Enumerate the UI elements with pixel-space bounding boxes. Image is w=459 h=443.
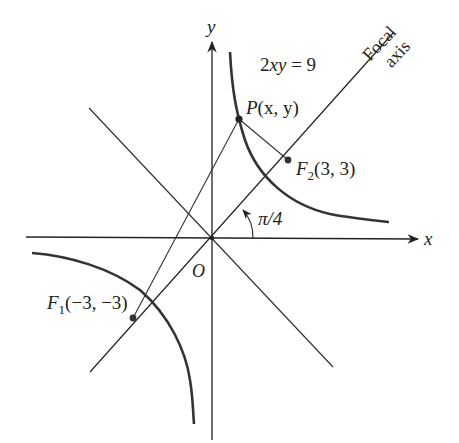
focal-axis-line	[90, 32, 394, 372]
hyperbola-branch-upper	[230, 52, 389, 222]
point-F2-label: F2(3, 3)	[295, 158, 355, 183]
point-F2	[285, 157, 292, 164]
point-P	[235, 115, 242, 122]
x-axis-label: x	[423, 228, 433, 249]
segment-P-F1	[133, 119, 239, 318]
point-F1-label: F1(−3, −3)	[46, 292, 128, 317]
origin-label: O	[192, 261, 205, 281]
focal-axis-label: Focal axis	[358, 19, 418, 79]
hyperbola-diagram: y x O 2xy = 9 Focal axis P(x, y) F2(3, 3…	[0, 0, 459, 443]
equation-label: 2xy = 9	[260, 54, 316, 75]
y-axis-label: y	[205, 16, 216, 37]
angle-arc	[243, 210, 253, 238]
origin-point	[210, 236, 214, 240]
point-P-label: P(x, y)	[245, 97, 299, 119]
segment-P-F2	[239, 119, 288, 160]
angle-label: π/4	[258, 208, 283, 229]
point-F1	[130, 315, 137, 322]
hyperbola-branch-lower	[32, 253, 194, 424]
x-axis	[26, 237, 418, 239]
